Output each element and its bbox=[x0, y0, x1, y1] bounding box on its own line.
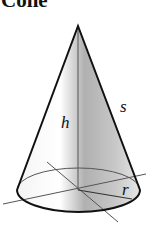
height-label: h bbox=[61, 113, 70, 132]
radius-label: r bbox=[122, 180, 129, 199]
cone-diagram: h s r bbox=[0, 0, 154, 233]
slant-label: s bbox=[120, 97, 127, 116]
